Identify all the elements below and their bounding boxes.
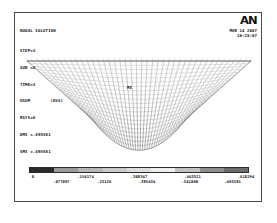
colorbar-tick-lower-0: .077087 (53, 179, 70, 184)
plot-title: NODAL SOLUTION (20, 28, 63, 34)
ansys-logo-icon: AN (228, 15, 257, 26)
colorbar-band-4 (127, 168, 151, 173)
contour-legend: 0.154174.308347.463521.618294.077087.231… (29, 167, 249, 186)
colorbar-band-7 (200, 168, 224, 173)
colorbar-tick-upper-0: 0 (32, 174, 34, 179)
colorbar-tick-upper-1: .154174 (77, 174, 94, 179)
colorbar-tick-lower-2: .385434 (139, 179, 156, 184)
colorbar-band-2 (78, 168, 102, 173)
mesh-plot-svg (15, 41, 262, 169)
colorbar-band-6 (175, 168, 199, 173)
plot-date: MAR 14 2007 (229, 28, 257, 33)
ansys-logo-area: AN MAR 14 2007 16:15:07 (229, 15, 257, 38)
plot-time: 16:15:07 (229, 33, 257, 38)
colorbar-tick-lower-4: .495581 (224, 179, 241, 184)
colorbar-band-3 (103, 168, 127, 173)
contour-tick-row: 0.154174.308347.463521.618294.077087.231… (29, 173, 249, 185)
colorbar-band-1 (54, 168, 78, 173)
mx-marker-label: MX (127, 85, 132, 90)
colorbar-band-0 (30, 168, 54, 173)
colorbar-tick-lower-1: .23126 (97, 179, 111, 184)
mesh-plot-area: MX (15, 41, 262, 169)
colorbar-band-5 (151, 168, 175, 173)
colorbar-band-8 (224, 168, 248, 173)
colorbar-tick-lower-3: .541000 (181, 179, 198, 184)
ansys-plot-window: NODAL SOLUTION STEP=3 SUB =4 TIME=3 USUM… (14, 12, 262, 202)
